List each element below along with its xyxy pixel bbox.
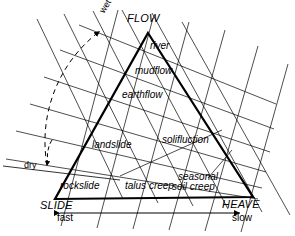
triangle-path [55, 33, 253, 199]
axis-label-fast: fast [57, 213, 73, 223]
inner-label-rockslide: rockslide [60, 181, 99, 191]
vertex-label-flow: FLOW [127, 13, 160, 24]
inner-label-solifluction: solifluction [162, 135, 209, 145]
inner-label-earthflow: earthflow [122, 90, 163, 100]
inner-label-river: river [150, 41, 169, 51]
vertex-label-heave: HEAVE [222, 199, 260, 210]
grid-lines-family-left [6, 25, 276, 199]
mass-movement-triangle-diagram: FLOW SLIDE HEAVE river mudflow earthflow… [0, 0, 295, 236]
axis-label-dry: dry [24, 161, 37, 170]
inner-label-soil-creep: soil creep [172, 182, 215, 192]
inner-label-talus-creep: talus creep [125, 181, 174, 191]
axis-label-slow: slow [232, 213, 252, 223]
inner-label-mudflow: mudflow [135, 66, 172, 76]
triangle-outline [55, 33, 253, 199]
inner-label-landslide: landslide [92, 140, 131, 150]
vertex-label-slide: SLIDE [40, 200, 73, 211]
grid-line-r2 [97, 18, 153, 228]
dry-arrow-path [47, 140, 52, 166]
